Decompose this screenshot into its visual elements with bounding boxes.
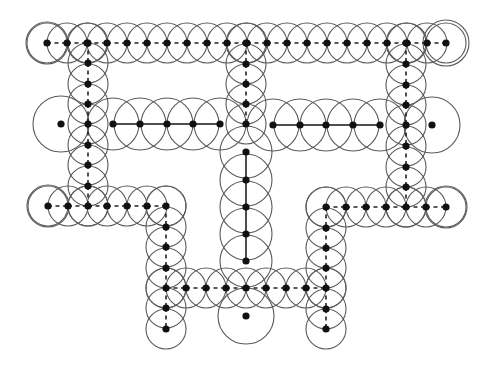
node-dot: [162, 264, 169, 271]
node-dot: [64, 202, 71, 209]
node-dot: [242, 148, 249, 155]
node-dot: [43, 39, 50, 46]
node-dot: [242, 312, 249, 319]
node-dot: [283, 39, 290, 46]
node-dot: [123, 39, 130, 46]
node-dot: [262, 284, 269, 291]
node-dot: [402, 203, 409, 210]
node-dot: [202, 284, 209, 291]
node-dot: [222, 284, 229, 291]
node-dot: [162, 325, 169, 332]
node-dot: [57, 120, 64, 127]
node-dot: [302, 284, 309, 291]
node-dot: [428, 121, 435, 128]
node-dot: [84, 80, 91, 87]
node-dot: [103, 202, 110, 209]
node-dot: [162, 223, 169, 230]
node-dot: [123, 202, 130, 209]
node-dot: [63, 39, 70, 46]
node-dot: [442, 39, 449, 46]
node-dot: [402, 142, 409, 149]
node-dot: [362, 203, 369, 210]
node-dot: [263, 39, 270, 46]
node-dot: [242, 284, 249, 291]
node-dot: [203, 39, 210, 46]
node-dot: [84, 120, 91, 127]
node-dot: [282, 284, 289, 291]
node-dot: [322, 305, 329, 312]
node-dot: [109, 120, 116, 127]
node-dot: [322, 224, 329, 231]
node-dot: [402, 121, 409, 128]
node-dot: [242, 100, 249, 107]
node-dot: [84, 161, 91, 168]
node-dot: [143, 202, 150, 209]
node-dot: [162, 202, 169, 209]
coverage-circles: [26, 20, 469, 349]
node-dot: [402, 163, 409, 170]
node-dot: [322, 203, 329, 210]
node-dot: [162, 284, 169, 291]
node-dot: [402, 39, 409, 46]
node-dot: [382, 203, 389, 210]
node-dot: [162, 304, 169, 311]
node-dot: [269, 121, 276, 128]
node-dot: [84, 182, 91, 189]
node-dot: [423, 39, 430, 46]
node-dot: [223, 39, 230, 46]
node-dot: [349, 121, 356, 128]
node-dot: [322, 264, 329, 271]
circle-cover-diagram: [0, 0, 487, 365]
node-dot: [343, 39, 350, 46]
node-dot: [242, 203, 249, 210]
node-dot: [242, 176, 249, 183]
node-dot: [84, 100, 91, 107]
node-dot: [376, 121, 383, 128]
node-dot: [242, 60, 249, 67]
node-dot: [216, 120, 223, 127]
node-dot: [242, 120, 249, 127]
node-dot: [363, 39, 370, 46]
node-dot: [163, 39, 170, 46]
node-dot: [103, 39, 110, 46]
node-dot: [84, 141, 91, 148]
node-dot: [242, 80, 249, 87]
node-dot: [84, 202, 91, 209]
node-dot: [422, 203, 429, 210]
node-dot: [402, 183, 409, 190]
node-dot: [44, 202, 51, 209]
node-dot: [322, 325, 329, 332]
node-dot: [84, 39, 91, 46]
node-dot: [322, 284, 329, 291]
node-dot: [383, 39, 390, 46]
node-dot: [303, 39, 310, 46]
node-dot: [162, 243, 169, 250]
node-dot: [182, 284, 189, 291]
node-dot: [189, 120, 196, 127]
node-dot: [296, 121, 303, 128]
node-dot: [442, 203, 449, 210]
node-dot: [136, 120, 143, 127]
node-dot: [84, 59, 91, 66]
node-dot: [322, 244, 329, 251]
node-dot: [242, 230, 249, 237]
node-dot: [322, 121, 329, 128]
node-dot: [242, 39, 249, 46]
node-dot: [323, 39, 330, 46]
node-dot: [242, 257, 249, 264]
node-dot: [402, 60, 409, 67]
node-dot: [342, 203, 349, 210]
node-dot: [163, 120, 170, 127]
node-dot: [183, 39, 190, 46]
node-dot: [402, 81, 409, 88]
node-dot: [402, 101, 409, 108]
node-dot: [143, 39, 150, 46]
